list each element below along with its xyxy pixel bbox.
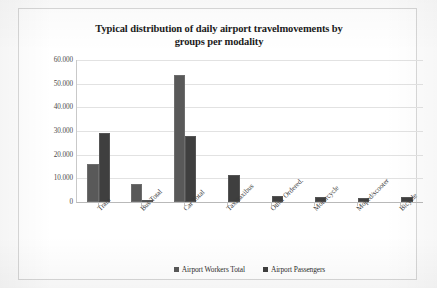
gridline (77, 178, 423, 179)
legend-item[interactable]: Airport Workers Total (174, 265, 245, 274)
y-tick-label: 0 (37, 198, 73, 206)
bar[interactable] (99, 133, 110, 202)
chart-title: Typical distribution of daily airport tr… (69, 23, 369, 48)
y-tick-label: 10.000 (37, 174, 73, 182)
chart-legend: Airport Workers TotalAirport Passengers (76, 265, 423, 274)
legend-label: Airport Passengers (271, 265, 325, 274)
bar[interactable] (131, 184, 142, 202)
legend-item[interactable]: Airport Passengers (263, 265, 325, 274)
gridline (77, 131, 423, 132)
bar-group (131, 60, 153, 202)
bar-group (174, 60, 196, 202)
bar-group (347, 60, 369, 202)
y-axis: 010.00020.00030.00040.00050.00060.000 (37, 53, 73, 210)
gridline (77, 60, 423, 61)
gridline (77, 155, 423, 156)
gridline (77, 107, 423, 108)
legend-label: Airport Workers Total (182, 265, 245, 274)
y-tick-label: 30.000 (37, 127, 73, 135)
gridline (77, 84, 423, 85)
bar-group (390, 60, 412, 202)
chart-title-line-2: groups per modality (69, 36, 369, 49)
chart-title-line-1: Typical distribution of daily airport tr… (69, 23, 369, 36)
y-tick-label: 60.000 (37, 56, 73, 64)
legend-swatch-icon (174, 267, 179, 272)
bar-group (217, 60, 239, 202)
chart-frame: Typical distribution of daily airport tr… (18, 8, 417, 280)
bar[interactable] (185, 136, 196, 202)
y-tick-label: 20.000 (37, 151, 73, 159)
y-tick-label: 50.000 (37, 80, 73, 88)
bar[interactable] (174, 75, 185, 202)
bar-group (87, 60, 109, 202)
bar-group (304, 60, 326, 202)
x-axis: TrainBus TotalCar TotalTaxi/taxibusOther… (76, 203, 423, 261)
y-tick-label: 40.000 (37, 103, 73, 111)
bar-group (260, 60, 282, 202)
legend-swatch-icon (263, 267, 268, 272)
bar[interactable] (87, 164, 98, 202)
screenshot-page: Typical distribution of daily airport tr… (0, 0, 437, 288)
